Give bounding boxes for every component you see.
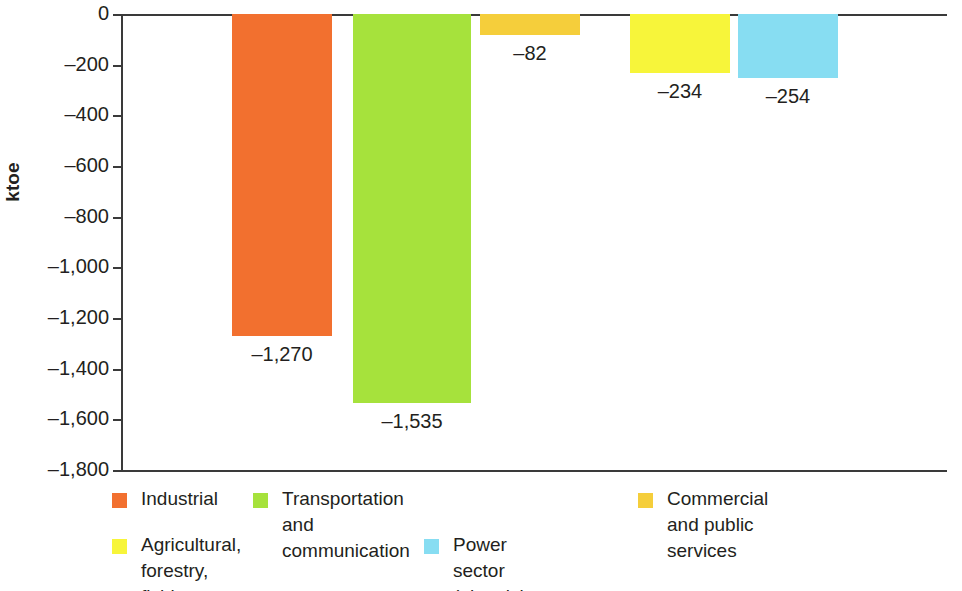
tick-mark (113, 14, 121, 16)
bar-chart-figure: ktoe 0–200–400–600–800–1,000–1,200–1,400… (0, 0, 962, 591)
tick-label: –800 (65, 203, 110, 229)
y-axis-title: ktoe (2, 137, 26, 227)
bar-value-label: –82 (460, 41, 600, 65)
tick-label: –200 (65, 51, 110, 77)
legend-label: Power sector (electricity, gas, steam, a… (453, 532, 554, 591)
legend-label: Agricultural, forestry, fishing and non … (141, 532, 241, 591)
legend-color-swatch (253, 493, 268, 508)
tick-mark (113, 267, 121, 269)
legend-label: Transportation and communication (282, 486, 410, 564)
bar[interactable] (480, 14, 580, 35)
bar[interactable] (738, 14, 838, 78)
tick-label: –400 (65, 101, 110, 127)
tick-mark (113, 318, 121, 320)
legend-label: Industrial (141, 486, 218, 512)
tick-label: –1,200 (48, 304, 109, 330)
bar[interactable] (232, 14, 332, 336)
tick-label: –1,600 (48, 405, 109, 431)
chart-legend: IndustrialTransportation and communicati… (0, 486, 962, 591)
bar-value-label: –1,535 (333, 409, 491, 433)
bar-value-label: –1,270 (212, 342, 352, 366)
legend-color-swatch (638, 493, 653, 508)
tick-label: –1,000 (48, 253, 109, 279)
legend-color-swatch (112, 493, 127, 508)
tick-mark (113, 115, 121, 117)
tick-mark (113, 369, 121, 371)
tick-label: –1,800 (48, 456, 109, 482)
tick-mark (113, 470, 121, 472)
plot-area: 0–200–400–600–800–1,000–1,200–1,400–1,60… (121, 14, 947, 472)
bar-value-label: –254 (718, 84, 858, 108)
bar[interactable] (353, 14, 471, 403)
tick-mark (113, 419, 121, 421)
y-axis-spine (121, 14, 123, 472)
tick-label: –600 (65, 152, 110, 178)
legend-label: Commercial and public services (667, 486, 768, 564)
tick-label: 0 (98, 0, 109, 26)
legend-color-swatch (424, 539, 439, 554)
bar[interactable] (630, 14, 730, 73)
tick-label: –1,400 (48, 355, 109, 381)
tick-mark (113, 217, 121, 219)
tick-mark (113, 65, 121, 67)
x-axis-spine (121, 470, 947, 472)
tick-mark (113, 166, 121, 168)
legend-color-swatch (112, 539, 127, 554)
